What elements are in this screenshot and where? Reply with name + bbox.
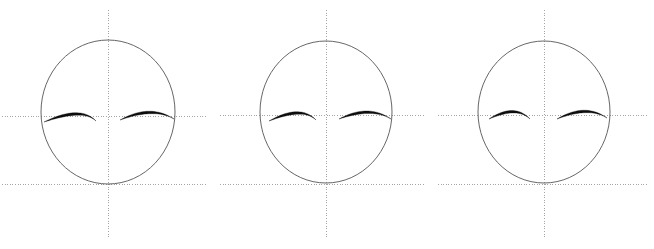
panel-2 [220,10,425,237]
figure-canvas [0,0,654,249]
eyebrow-right-arc [120,111,174,120]
eyebrow-left-arc [44,113,96,122]
eyebrow-left-arc [489,111,530,120]
eyebrow-right-arc [339,111,391,119]
eyebrow-left-arc [269,112,316,121]
face-diagram-svg [0,0,654,249]
panel-1 [2,10,207,237]
panel-3 [438,10,648,237]
